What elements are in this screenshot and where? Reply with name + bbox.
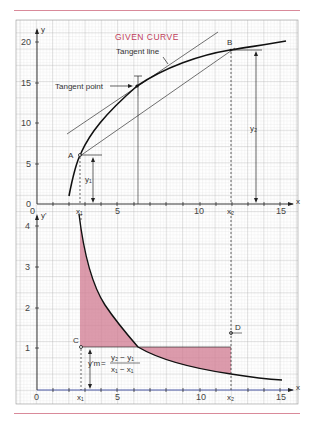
top-x-tick-15: 15: [276, 206, 286, 216]
top-y-tick-20: 20: [21, 37, 31, 47]
top-y-tick-5: 5: [26, 159, 31, 169]
top-x-axis-label: x: [296, 197, 300, 206]
y1-label: y₁: [85, 175, 92, 184]
tangent-point-label: Tangent point: [55, 82, 104, 91]
bottom-x-tick-0: 0: [34, 392, 39, 402]
tangent-point-marker: [135, 84, 138, 87]
bottom-x-tick-15: 15: [276, 392, 286, 402]
formula-numerator: y₂ − y₁: [111, 353, 134, 362]
bottom-y-axis-label: y': [41, 211, 47, 220]
chart-title: GIVEN CURVE: [115, 32, 179, 42]
top-x2-label: x₂: [227, 207, 234, 216]
bottom-y-tick-1: 1: [25, 343, 30, 353]
ym-label: y'm: [88, 359, 101, 368]
point-b-label: B: [227, 38, 232, 47]
chart-canvas: 0 5 10 15 20 15 10 5 0 y x GIVEN CURVE T…: [0, 0, 314, 426]
y2-label: y₂: [250, 124, 257, 133]
point-c-marker: [80, 346, 83, 349]
top-y-tick-0: 0: [26, 199, 31, 209]
bottom-x-tick-10: 10: [196, 392, 206, 402]
bottom-x-axis-label: x: [296, 383, 300, 392]
tangent-line-label: Tangent line: [116, 47, 160, 56]
point-a-label: A: [68, 151, 74, 160]
point-d-label: D: [235, 323, 241, 332]
bottom-x2-label: x₂: [227, 393, 234, 402]
bottom-y-tick-4: 4: [25, 221, 30, 231]
bottom-x-tick-5: 5: [115, 392, 120, 402]
top-y-axis-label: y: [41, 25, 45, 34]
bottom-y-tick-2: 2: [25, 303, 30, 313]
formula-equals: =: [101, 359, 106, 368]
top-x-tick-10: 10: [194, 206, 204, 216]
bottom-y-tick-3: 3: [25, 262, 30, 272]
formula-denominator: x₁ − x₁: [111, 365, 134, 374]
top-x-tick-5: 5: [115, 206, 120, 216]
point-c-label: C: [73, 336, 79, 345]
top-y-tick-10: 10: [21, 118, 31, 128]
top-y-tick-15: 15: [21, 78, 31, 88]
bottom-x1-label: x₁: [77, 393, 84, 402]
